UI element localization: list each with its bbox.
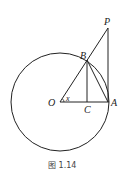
figure-caption: 图 1.14 bbox=[48, 161, 76, 170]
chord-BA bbox=[87, 60, 108, 102]
unit-circle-diagram: P B O x C A 图 1.14 bbox=[0, 0, 125, 176]
label-A: A bbox=[110, 97, 118, 108]
line-OP bbox=[60, 28, 108, 102]
label-C: C bbox=[84, 104, 91, 115]
label-x: x bbox=[65, 94, 70, 103]
label-B: B bbox=[80, 50, 86, 61]
label-P: P bbox=[103, 16, 110, 27]
label-O: O bbox=[48, 97, 55, 108]
